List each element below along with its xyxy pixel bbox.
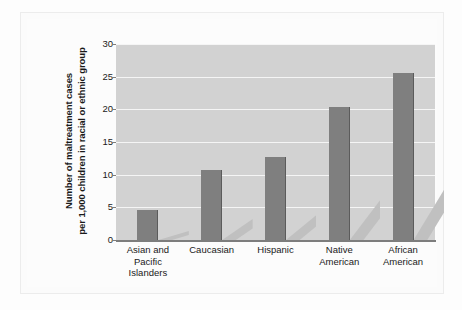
x-axis-tick-labels: Asian andPacificIslandersCaucasianHispan… — [116, 244, 435, 304]
bar-slot — [137, 44, 158, 240]
x-tick-label: Caucasian — [180, 244, 244, 256]
y-tick-mark — [112, 142, 116, 143]
y-axis-title: Number of maltreatment cases per 1,000 c… — [55, 38, 95, 243]
bar[interactable] — [393, 73, 414, 240]
x-tick-label-line: American — [371, 256, 435, 268]
bar-shadow — [286, 215, 316, 240]
bar-shadow — [222, 219, 252, 240]
y-tick-mark — [112, 175, 116, 176]
x-tick-label-line: Asian and — [116, 244, 180, 256]
y-axis-title-line-1: Number of maltreatment cases — [62, 47, 75, 234]
x-tick-label-line: Pacific — [116, 256, 180, 268]
y-tick-label: 30 — [92, 39, 113, 49]
y-tick-mark — [112, 207, 116, 208]
x-tick-label-line: Hispanic — [244, 244, 308, 256]
x-tick-label-line: African — [371, 244, 435, 256]
bar[interactable] — [201, 170, 222, 240]
y-tick-label: 0 — [92, 235, 113, 245]
x-tick-label-line: Native — [307, 244, 371, 256]
x-tick-label: AfricanAmerican — [371, 244, 435, 267]
bar-slot — [265, 44, 286, 240]
x-tick-label-line: Caucasian — [180, 244, 244, 256]
bar[interactable] — [265, 157, 286, 240]
bar[interactable] — [329, 107, 350, 240]
x-tick-label: NativeAmerican — [307, 244, 371, 267]
y-tick-mark — [112, 240, 116, 241]
bar-slot — [393, 44, 414, 240]
plot-area — [116, 44, 435, 240]
y-tick-mark — [112, 44, 116, 45]
x-tick-label: Asian andPacificIslanders — [116, 244, 180, 279]
y-tick-mark — [112, 109, 116, 110]
bar-shadow — [350, 200, 380, 240]
x-axis-line — [116, 240, 436, 242]
x-tick-label-line: American — [307, 256, 371, 268]
bar-slot — [201, 44, 222, 240]
y-tick-label: 20 — [92, 104, 113, 114]
y-tick-label: 15 — [92, 137, 113, 147]
y-axis-title-line-2: per 1,000 children in racial or ethnic g… — [75, 47, 88, 234]
y-tick-label: 5 — [92, 202, 113, 212]
x-tick-label: Hispanic — [244, 244, 308, 256]
x-tick-label-line: Islanders — [116, 267, 180, 279]
bar-shadow — [414, 190, 444, 240]
bar-slot — [329, 44, 350, 240]
y-tick-mark — [112, 77, 116, 78]
y-tick-label: 10 — [92, 170, 113, 180]
y-tick-label: 25 — [92, 72, 113, 82]
figure: Number of maltreatment cases per 1,000 c… — [0, 0, 462, 310]
bar-chart: Number of maltreatment cases per 1,000 c… — [0, 0, 462, 310]
bar[interactable] — [137, 210, 158, 240]
bar-shadow — [158, 231, 188, 240]
y-axis-tick-labels: 051015202530 — [92, 36, 113, 246]
